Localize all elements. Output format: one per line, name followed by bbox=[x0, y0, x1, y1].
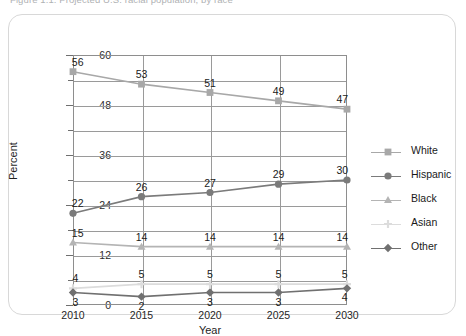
data-value-label: 3 bbox=[72, 296, 78, 308]
x-tick-label: 2020 bbox=[198, 309, 221, 321]
data-point-plus bbox=[138, 280, 146, 288]
data-value-label: 14 bbox=[204, 231, 216, 243]
data-value-label: 14 bbox=[336, 231, 348, 243]
x-tick-label: 2030 bbox=[335, 309, 358, 321]
x-tick-label: 2015 bbox=[130, 309, 153, 321]
plus-marker-icon bbox=[382, 218, 394, 230]
y-tick-mark bbox=[66, 105, 73, 106]
data-value-label: 3 bbox=[276, 296, 282, 308]
data-value-label: 22 bbox=[72, 197, 84, 209]
data-point-triangle bbox=[384, 196, 392, 203]
data-point-circle bbox=[206, 189, 213, 196]
legend-label: Black bbox=[411, 192, 437, 204]
figure-caption: Figure 1.1. Projected U.S. racial popula… bbox=[10, 0, 233, 5]
data-value-label: 5 bbox=[139, 268, 145, 280]
data-point-circle bbox=[343, 176, 350, 183]
data-value-label: 14 bbox=[273, 231, 285, 243]
diamond-marker-icon bbox=[382, 242, 394, 254]
legend-label: White bbox=[411, 144, 438, 156]
triangle-marker-icon bbox=[382, 194, 394, 206]
data-point-circle bbox=[275, 181, 282, 188]
data-value-label: 3 bbox=[207, 296, 213, 308]
data-value-label: 53 bbox=[136, 68, 148, 80]
data-value-label: 29 bbox=[273, 168, 285, 180]
data-value-label: 26 bbox=[136, 181, 148, 193]
data-point-circle bbox=[384, 172, 391, 179]
data-point-square bbox=[207, 89, 214, 96]
x-tick-label: 2010 bbox=[61, 309, 84, 321]
y-tick-mark bbox=[66, 155, 73, 156]
data-point-circle bbox=[138, 193, 145, 200]
data-value-label: 5 bbox=[207, 268, 213, 280]
legend-label: Asian bbox=[411, 216, 437, 228]
square-marker-icon bbox=[382, 146, 394, 158]
x-axis-title: Year bbox=[199, 324, 221, 336]
y-tick-mark bbox=[66, 255, 73, 256]
legend-label: Other bbox=[411, 240, 437, 252]
data-value-label: 5 bbox=[276, 268, 282, 280]
data-value-label: 15 bbox=[72, 227, 84, 239]
data-value-label: 56 bbox=[72, 56, 84, 68]
data-point-plus bbox=[275, 280, 283, 288]
data-value-label: 47 bbox=[336, 93, 348, 105]
data-point-diamond bbox=[384, 244, 392, 252]
legend-label: Hispanic bbox=[411, 168, 451, 180]
data-point-square bbox=[344, 106, 351, 113]
data-point-plus bbox=[206, 280, 214, 288]
data-value-label: 30 bbox=[336, 164, 348, 176]
circle-marker-icon bbox=[382, 170, 394, 182]
data-point-plus bbox=[384, 220, 392, 228]
data-point-square bbox=[275, 97, 282, 104]
data-point-circle bbox=[69, 210, 76, 217]
data-point-square bbox=[138, 81, 145, 88]
y-axis-title: Percent bbox=[7, 142, 19, 180]
data-point-square bbox=[385, 149, 392, 156]
data-value-label: 4 bbox=[342, 291, 348, 303]
data-value-label: 27 bbox=[204, 177, 216, 189]
data-value-label: 14 bbox=[136, 231, 148, 243]
x-tick-label: 2025 bbox=[267, 309, 290, 321]
data-value-label: 4 bbox=[72, 272, 78, 284]
data-value-label: 49 bbox=[273, 85, 285, 97]
data-value-label: 51 bbox=[204, 77, 216, 89]
chart-card: Percent Year 01224364860 565351494722262… bbox=[8, 14, 456, 315]
data-value-label: 5 bbox=[342, 268, 348, 280]
data-point-square bbox=[70, 68, 77, 75]
